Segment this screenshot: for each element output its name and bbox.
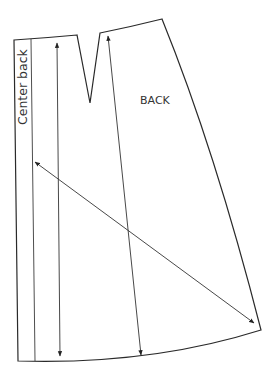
center-back-label: Center back bbox=[15, 48, 30, 125]
skirt-back-pattern-diagram: Center back BACK bbox=[0, 0, 275, 373]
grainline-arrow-right bbox=[108, 36, 141, 355]
grainline-arrow-left bbox=[57, 43, 60, 356]
piece-label-back: BACK bbox=[140, 94, 171, 107]
pattern-outline bbox=[14, 19, 261, 361]
center-back-fold-line bbox=[31, 39, 35, 361]
